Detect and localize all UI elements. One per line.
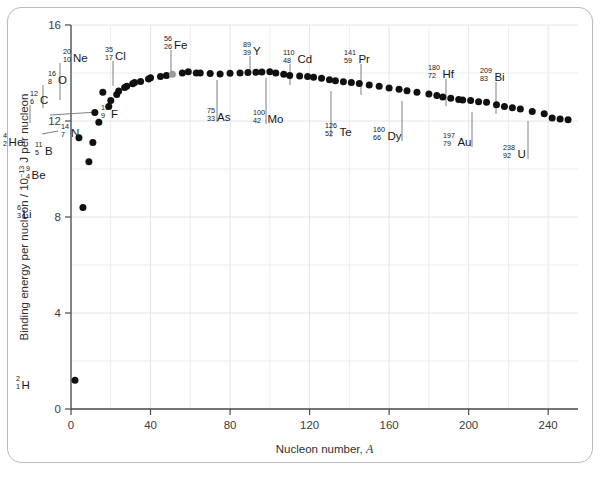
data-point: [115, 88, 122, 95]
data-point: [286, 72, 293, 79]
nuclide-label-C-12: 126C: [30, 89, 48, 106]
nuclide-label-B-11: 115B: [35, 140, 53, 157]
x-axis-symbol: A: [365, 442, 374, 456]
element-symbol-F-19: F: [111, 108, 118, 120]
data-point: [79, 204, 86, 211]
data-point: [71, 377, 78, 384]
data-point: [296, 72, 303, 79]
nuclide-label-As-75: 7533As: [207, 106, 231, 123]
data-point: [131, 79, 138, 86]
nuclide-label-Fe-56: 5626Fe: [164, 34, 187, 51]
y-tick-label: 0: [55, 403, 61, 415]
nuclide-label-Cl-35: 3517Cl: [105, 45, 126, 62]
atomic-number-As-75: 33: [207, 114, 215, 123]
data-point: [318, 75, 325, 82]
nuclide-label-Be-9: 94Be: [26, 164, 46, 181]
element-symbol-Bi-209: Bi: [494, 71, 504, 83]
element-symbol-He-4: He: [9, 136, 24, 148]
element-symbol-As-75: As: [217, 111, 231, 123]
data-point: [396, 86, 403, 93]
nuclide-label-O-16: 168O: [48, 69, 67, 86]
data-point: [227, 70, 234, 77]
atomic-number-Te-126: 52: [325, 129, 333, 138]
nuclide-label-Dy-160: 16066Dy: [373, 125, 402, 142]
data-point: [310, 74, 317, 81]
x-tick-label: 0: [68, 419, 74, 431]
data-point: [332, 77, 339, 84]
y-axis-exponent: −13: [17, 166, 26, 178]
data-point: [244, 69, 251, 76]
data-point: [340, 78, 347, 85]
atomic-number-Be-9: 4: [26, 172, 30, 181]
data-point: [89, 139, 96, 146]
element-symbol-C-12: C: [40, 94, 48, 106]
element-symbol-Dy-160: Dy: [387, 130, 401, 142]
atomic-number-Bi-209: 83: [480, 74, 488, 83]
atomic-number-O-16: 8: [48, 77, 52, 86]
atomic-number-Cl-35: 17: [105, 53, 113, 62]
element-symbol-Au-197: Au: [457, 136, 471, 148]
nuclide-label-Cd-110: 11048Cd: [283, 48, 312, 65]
data-point: [376, 83, 383, 90]
atomic-number-Fe-56: 26: [164, 42, 172, 51]
data-point: [483, 99, 490, 106]
atomic-number-Li-6: 3: [17, 211, 21, 220]
y-tick-label: 4: [55, 307, 62, 319]
nuclide-label-Mo-100: 10042Mo: [253, 108, 283, 125]
leader-line-N-14: [42, 131, 58, 134]
data-point: [517, 106, 524, 113]
data-point: [386, 84, 393, 91]
atomic-number-Hf-180: 72: [428, 71, 436, 80]
atomic-number-C-12: 6: [30, 97, 34, 106]
data-point: [529, 108, 536, 115]
nuclide-label-Bi-209: 20983Bi: [480, 66, 505, 83]
atomic-number-He-4: 2: [3, 139, 7, 148]
data-point: [356, 80, 363, 87]
element-symbol-H-2: H: [22, 379, 30, 391]
nuclide-label-N-14: 147N: [61, 122, 79, 139]
atomic-number-B-11: 5: [35, 148, 39, 157]
data-point: [366, 82, 373, 89]
data-point: [433, 92, 440, 99]
atomic-number-U-238: 92: [503, 151, 511, 160]
nuclide-label-Y-89: 8939Y: [243, 40, 261, 57]
atomic-number-N-14: 7: [61, 130, 65, 139]
element-symbol-Li-6: Li: [23, 208, 32, 220]
data-points: [71, 68, 571, 383]
data-point: [91, 109, 98, 116]
data-point: [459, 96, 466, 103]
atomic-number-Ne-20: 10: [63, 55, 71, 64]
data-point: [179, 70, 186, 77]
data-point-highlight: [169, 71, 176, 78]
element-symbol-U-238: U: [517, 148, 525, 160]
atomic-number-Au-197: 79: [443, 139, 451, 148]
x-tick-label: 120: [300, 419, 319, 431]
leader-line-F-19: [50, 112, 98, 115]
data-point: [280, 71, 287, 78]
data-point: [413, 89, 420, 96]
data-point: [147, 74, 154, 81]
data-point: [501, 103, 508, 110]
data-point: [475, 98, 482, 105]
atomic-number-F-19: 9: [101, 111, 105, 120]
data-point: [99, 89, 106, 96]
atomic-number-Pr-141: 59: [344, 56, 352, 65]
data-point: [425, 91, 432, 98]
atomic-number-Y-89: 39: [243, 48, 251, 57]
y-tick-label: 12: [48, 115, 61, 127]
nuclide-labels: 21H63Li94Be115B42He126C147N168O199F2010N…: [3, 34, 526, 391]
element-symbol-Cl-35: Cl: [115, 50, 126, 62]
nuclide-label-H-2: 21H: [16, 374, 30, 391]
data-point: [493, 101, 500, 108]
data-point: [123, 83, 130, 90]
nuclide-label-U-238: 23892U: [503, 143, 526, 160]
y-axis-title-suffix: J per nucleon: [18, 94, 30, 166]
data-point: [565, 116, 572, 123]
element-symbol-Y-89: Y: [253, 45, 261, 57]
element-symbol-O-16: O: [58, 74, 67, 86]
element-symbol-N-14: N: [71, 127, 79, 139]
atomic-number-Cd-110: 48: [283, 56, 291, 65]
element-symbol-Fe-56: Fe: [174, 39, 187, 51]
atomic-number-Dy-160: 66: [373, 133, 381, 142]
nuclide-label-Au-197: 19779Au: [443, 131, 471, 148]
